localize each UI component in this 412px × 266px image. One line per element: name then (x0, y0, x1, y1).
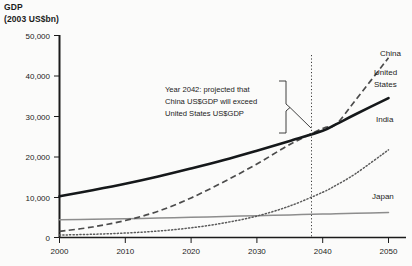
y-tick-label-20000: 20,000 (26, 153, 51, 162)
annotation-callout-text: Year 2042: projected that China US$GDP w… (165, 85, 257, 118)
series-label-united-states-line1: United (374, 68, 397, 77)
y-tick-label-30000: 30,000 (26, 113, 51, 122)
y-tick-label-40000: 40,000 (26, 72, 51, 81)
x-tick-label-2050: 2050 (380, 247, 398, 256)
annotation-line-2: China US$GDP will exceed (165, 97, 257, 106)
x-tick-label-2000: 2000 (51, 247, 69, 256)
x-tick-label-2010: 2010 (116, 247, 134, 256)
x-axis-ticks (60, 238, 389, 244)
annotation-leader-line (290, 108, 311, 129)
chart-subtitle: (2003 US$bn) (4, 14, 59, 24)
x-axis-tick-labels: 2000 2010 2020 2030 2040 2050 (51, 247, 398, 256)
y-tick-label-0: 0 (46, 234, 51, 243)
x-tick-label-2030: 2030 (248, 247, 266, 256)
annotation-line-3: United States US$GDP (165, 109, 244, 118)
series-label-united-states-line2: States (374, 80, 397, 89)
series-label-india: India (376, 115, 394, 124)
chart-page: GDP (2003 US$bn) 50,000 40,000 30,000 20… (0, 0, 412, 266)
x-tick-label-2020: 2020 (182, 247, 200, 256)
series-line-china (60, 58, 389, 232)
series-label-china: China (380, 49, 401, 58)
gdp-projection-chart: GDP (2003 US$bn) 50,000 40,000 30,000 20… (0, 0, 412, 266)
y-tick-label-10000: 10,000 (26, 194, 51, 203)
chart-title: GDP (4, 2, 23, 12)
y-tick-label-50000: 50,000 (26, 32, 51, 41)
x-tick-label-2040: 2040 (314, 247, 332, 256)
series-line-japan (60, 212, 389, 219)
y-axis-tick-labels: 50,000 40,000 30,000 20,000 10,000 0 (26, 32, 51, 243)
series-label-japan: Japan (372, 192, 394, 201)
annotation-line-1: Year 2042: projected that (165, 85, 250, 94)
annotation-bracket (279, 81, 290, 133)
series-line-india (60, 150, 389, 235)
